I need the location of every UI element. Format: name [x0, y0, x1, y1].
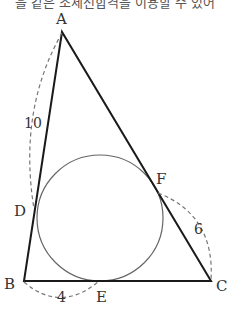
label-d: D: [14, 202, 26, 220]
length-ad: 10: [24, 115, 42, 131]
label-f: F: [156, 170, 166, 188]
label-c: C: [216, 277, 227, 295]
length-be: 4: [57, 289, 66, 305]
length-fc: 6: [194, 221, 203, 237]
label-a: A: [55, 10, 67, 28]
label-e: E: [96, 288, 107, 306]
triangle-incircle-diagram: A B C D E F 10 4 6: [0, 0, 230, 309]
triangle-abc: [24, 32, 211, 281]
incircle: [37, 155, 163, 281]
label-b: B: [4, 275, 15, 293]
